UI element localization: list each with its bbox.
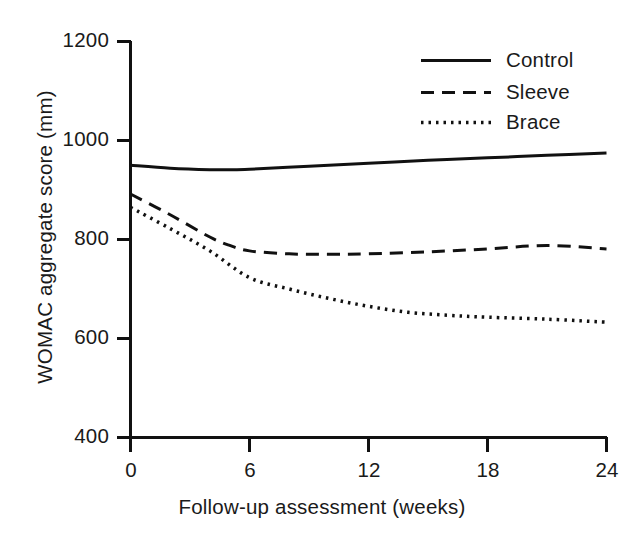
y-axis-ticks	[117, 42, 131, 438]
series-line-brace	[131, 207, 607, 322]
x-tick-label-6: 6	[225, 458, 275, 482]
x-tick-label-12: 12	[344, 458, 394, 482]
x-tick-label-24: 24	[582, 458, 632, 482]
x-axis-title: Follow-up assessment (weeks)	[0, 495, 644, 519]
y-tick-label-1200: 1200	[24, 28, 109, 52]
data-series-group	[131, 153, 607, 322]
series-line-control	[131, 153, 607, 170]
womac-line-chart-figure: 1200 1000 800 600 400 0 6 12 18 24 Follo…	[0, 0, 644, 533]
legend-sample-lines	[421, 61, 491, 123]
x-tick-label-0: 0	[106, 458, 156, 482]
legend-label-brace: Brace	[506, 110, 561, 134]
legend-label-sleeve: Sleeve	[506, 80, 570, 104]
x-tick-label-18: 18	[463, 458, 513, 482]
series-line-sleeve	[131, 194, 607, 254]
y-axis-title: WOMAC aggregate score (mm)	[33, 90, 56, 383]
y-axis-title-wrapper: WOMAC aggregate score (mm)	[33, 82, 63, 392]
x-axis-ticks	[131, 437, 607, 452]
legend-label-control: Control	[506, 48, 574, 72]
y-tick-label-400: 400	[24, 424, 109, 448]
